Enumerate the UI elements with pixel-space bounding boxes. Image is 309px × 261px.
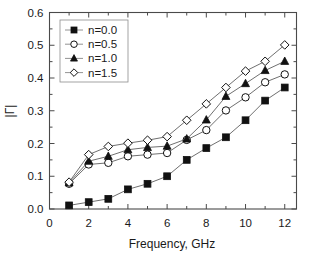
data-point-marker [242,117,249,124]
data-point-marker [261,79,268,86]
data-point-marker [281,71,288,78]
x-tick-label: 12 [278,217,291,229]
x-tick-label: 6 [164,217,170,229]
y-tick-label: 0.5 [28,39,44,51]
y-tick-label: 0.3 [28,105,44,117]
data-point-marker [125,186,132,193]
data-point-marker [71,27,77,33]
data-point-marker [105,195,112,202]
chart-canvas: 0.00.10.20.30.40.50.6 024681012 Frequenc… [0,0,309,261]
data-point-marker [203,145,210,152]
data-point-marker [144,151,151,158]
data-point-marker [144,180,151,187]
data-point-marker [203,126,210,133]
data-point-marker [71,41,78,48]
y-tick-label: 0.6 [28,7,44,19]
data-point-marker [242,94,249,101]
y-tick-label: 0.0 [28,203,44,215]
data-point-marker [66,202,73,209]
legend-label: n=0.5 [88,38,117,50]
data-point-marker [124,153,131,160]
legend-label: n=1.5 [88,67,117,79]
data-point-marker [262,97,269,104]
x-tick-label: 8 [203,217,209,229]
x-tick-label: 10 [239,217,252,229]
y-tick-label: 0.1 [28,170,44,182]
y-tick-label: 0.2 [28,138,44,150]
x-tick-label: 2 [86,217,92,229]
chart-legend: n=0.0n=0.5n=1.0n=1.5 [60,20,128,82]
data-point-marker [222,107,229,114]
x-tick-label: 0 [46,217,52,229]
data-point-marker [281,84,288,91]
data-point-marker [183,156,190,163]
x-axis-title: Frequency, GHz [129,237,215,251]
data-point-marker [85,199,92,206]
data-point-marker [105,159,112,166]
x-tick-label: 4 [125,217,132,229]
data-point-marker [223,134,230,141]
data-point-marker [164,173,171,180]
chart-figure: 0.00.10.20.30.40.50.6 024681012 Frequenc… [0,0,309,261]
legend-label: n=0.0 [88,24,117,36]
y-tick-label: 0.4 [28,72,45,84]
y-axis-title: |Γ| [3,105,17,118]
data-point-marker [163,149,170,156]
legend-label: n=1.0 [88,52,117,64]
